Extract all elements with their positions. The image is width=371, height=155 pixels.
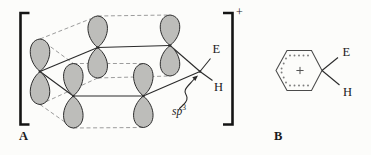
cation-charge: + xyxy=(236,6,243,18)
sp3-bond-to-h xyxy=(200,72,213,81)
structure-b-label: B xyxy=(274,130,282,143)
aromatic-dot-8 xyxy=(281,72,283,74)
ring-carbon-node-FR xyxy=(142,95,145,98)
sp3-carbon-node xyxy=(199,70,201,72)
hydrogen-label-b: H xyxy=(343,86,352,99)
p-orbital-lower-lobe-TR xyxy=(160,46,180,77)
pi-overlap-dash-FL-FR-down xyxy=(73,128,143,129)
ring-carbon-node-TM xyxy=(96,46,99,49)
structure-a-label: A xyxy=(19,130,28,143)
aromatic-dot-14 xyxy=(303,85,305,87)
sp3-label-sup: 3 xyxy=(182,103,186,112)
aromatic-dot-7 xyxy=(281,68,283,70)
aromatic-dot-9 xyxy=(283,77,285,79)
p-orbital-lower-lobe-TM xyxy=(88,48,108,79)
electrophile-label-a: E xyxy=(213,43,221,56)
p-orbital-upper-lobe-TR xyxy=(160,15,180,46)
electrophile-label-b: E xyxy=(343,46,351,59)
ring-carbon-node-TR xyxy=(169,44,172,47)
p-orbital-lower-lobe-FR xyxy=(134,96,154,128)
aromatic-dot-0 xyxy=(289,55,291,57)
ring-bond-to-e xyxy=(322,58,338,71)
right-bracket xyxy=(223,13,233,125)
aromatic-dot-11 xyxy=(289,85,291,87)
aromatic-dot-12 xyxy=(294,85,296,87)
ring-plus-sign xyxy=(296,67,303,74)
pi-overlap-dash-TM-TR-up xyxy=(98,15,170,16)
orbital-figure: A E H sp3 + B E H xyxy=(0,0,371,155)
p-orbital-upper-lobe-TM xyxy=(88,16,108,48)
left-bracket xyxy=(21,13,30,125)
aromatic-dot-10 xyxy=(285,82,287,84)
p-orbital-upper-lobe-L xyxy=(30,39,50,72)
aromatic-dot-4 xyxy=(307,55,309,57)
ring-carbon-node-FL xyxy=(72,95,75,98)
sp3-label: sp3 xyxy=(172,106,186,118)
ring-bond-TM-TR xyxy=(98,46,170,48)
sp3-bond-to-e xyxy=(200,59,211,72)
p-orbital-lower-lobe-FL xyxy=(64,96,84,128)
sp3-label-text: sp xyxy=(172,105,182,117)
aromatic-dot-5 xyxy=(285,58,287,60)
aromatic-dot-6 xyxy=(283,63,285,65)
ring-carbon-node-L xyxy=(39,70,42,73)
aromatic-dot-15 xyxy=(307,85,309,87)
aromatic-dot-2 xyxy=(298,55,300,57)
hydrogen-label-a: H xyxy=(214,81,223,94)
p-orbital-upper-lobe-FR xyxy=(134,64,154,97)
figure-canvas xyxy=(0,0,371,155)
aromatic-dot-13 xyxy=(298,85,300,87)
aromatic-dot-1 xyxy=(294,55,296,57)
aromatic-dot-3 xyxy=(303,55,305,57)
ring-bond-to-h xyxy=(322,71,340,86)
